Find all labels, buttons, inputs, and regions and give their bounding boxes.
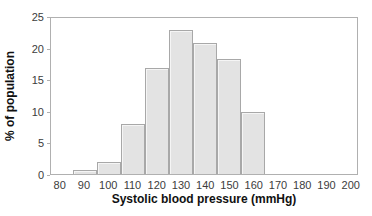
y-tick-mark [47,175,50,176]
histogram-bar [73,170,97,174]
y-axis-title: % of population [3,51,17,141]
histogram-bar [169,30,193,174]
x-axis-title: Systolic blood pressure (mmHg) [112,192,297,206]
histogram-bar [121,124,145,174]
y-tick-mark [47,17,50,18]
x-tick-label: 200 [342,179,360,191]
x-tick-label: 110 [124,179,142,191]
x-tick-label: 140 [196,179,214,191]
y-tick-label: 25 [0,11,44,23]
x-tick-label: 120 [148,179,166,191]
y-tick-mark [47,49,50,50]
x-tick-label: 160 [245,179,263,191]
x-tick-label: 90 [78,179,90,191]
histogram-bar [145,68,169,174]
x-tick-label: 80 [54,179,66,191]
x-tick-label: 130 [172,179,190,191]
histogram-bar [97,162,121,174]
y-tick-mark [47,80,50,81]
plot-area [50,17,358,175]
histogram-bar [193,43,217,174]
histogram-bar [241,112,265,174]
x-tick-label: 150 [220,179,238,191]
x-tick-label: 190 [317,179,335,191]
histogram-bar [217,59,241,174]
x-tick-label: 170 [269,179,287,191]
y-tick-label: 0 [0,169,44,181]
y-tick-mark [47,112,50,113]
x-tick-label: 180 [293,179,311,191]
y-tick-mark [47,143,50,144]
x-tick-label: 100 [99,179,117,191]
histogram-chart: 0510152025 80901001101201301401501601701… [0,0,372,216]
